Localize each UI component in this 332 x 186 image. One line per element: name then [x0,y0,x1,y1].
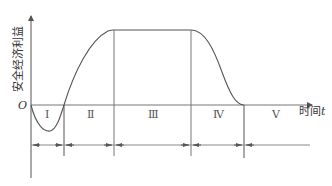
x-axis-label: 时间t [299,105,326,118]
phase-label-4: Ⅳ [213,108,225,121]
phase-label-2: Ⅱ [87,108,94,121]
phase-label-3: Ⅲ [148,108,159,121]
phase-label-5: Ⅴ [271,108,281,121]
phase-label-1: Ⅰ [45,108,49,121]
safety-economic-benefit-diagram: O 安全经济利益 时间t Ⅰ Ⅱ Ⅲ Ⅳ Ⅴ [0,0,332,186]
origin-label: O [18,99,27,112]
x-axis-label-text: 时间 [299,105,321,118]
x-axis-symbol: t [321,105,326,118]
y-axis-label: 安全经济利益 [11,26,25,92]
